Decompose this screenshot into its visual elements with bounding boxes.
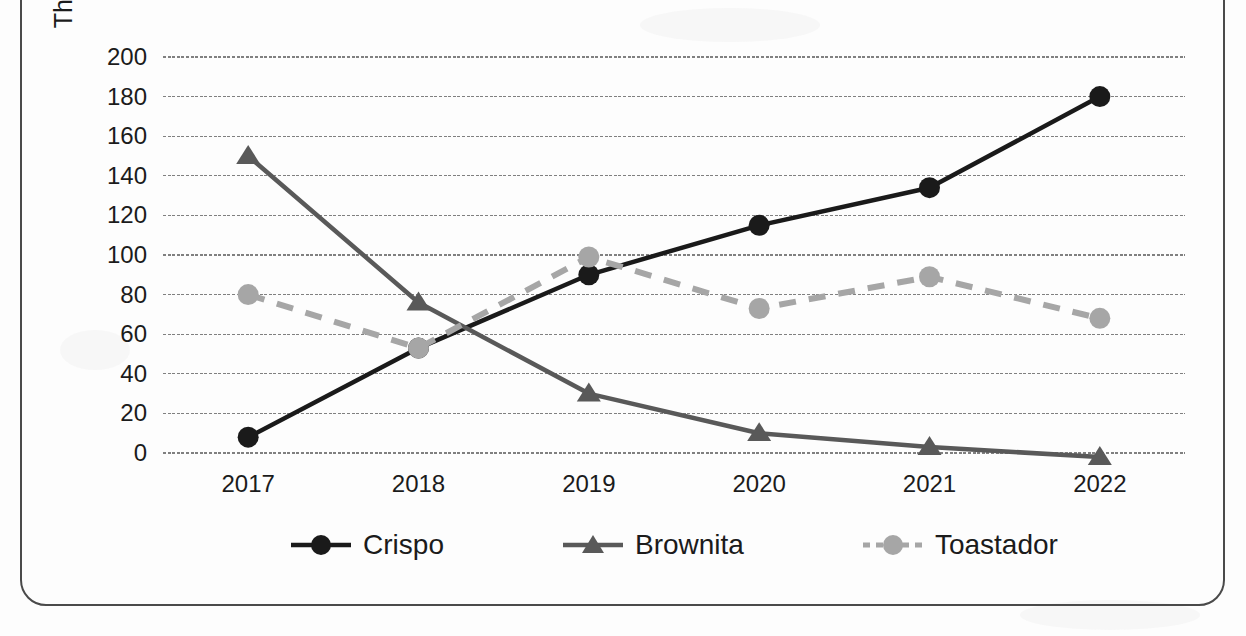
- chart-legend: CrispoBrownitaToastador: [163, 521, 1185, 569]
- plot-area: [163, 57, 1185, 453]
- y-tick-label: 40: [87, 362, 147, 386]
- data-point-marker: [919, 266, 940, 287]
- y-tick-label: 120: [87, 203, 147, 227]
- data-point-marker: [238, 427, 259, 448]
- x-tick-label: 2020: [699, 470, 819, 499]
- legend-label: Crispo: [363, 531, 444, 559]
- y-tick-label: 20: [87, 401, 147, 425]
- data-point-marker: [236, 145, 260, 164]
- legend-item-crispo[interactable]: Crispo: [290, 531, 444, 559]
- series-crispo: [238, 86, 1111, 448]
- y-tick-label: 200: [87, 45, 147, 69]
- series-brownita: [236, 145, 1112, 465]
- x-tick-label: 2018: [359, 470, 479, 499]
- data-point-marker: [749, 298, 770, 319]
- gridlines: [163, 57, 1185, 453]
- data-point-marker: [1089, 308, 1110, 329]
- plot-svg: [163, 57, 1185, 453]
- y-axis-tick-labels: 200180160140120100806040200: [85, 57, 147, 453]
- x-axis-tick-labels: 201720182019202020212022: [163, 470, 1185, 502]
- data-point-marker: [408, 338, 429, 359]
- data-point-marker: [749, 215, 770, 236]
- y-tick-label: 140: [87, 164, 147, 188]
- x-tick-label: 2019: [529, 470, 649, 499]
- data-point-marker: [1089, 86, 1110, 107]
- legend-item-brownita[interactable]: Brownita: [562, 531, 744, 559]
- x-tick-label: 2021: [870, 470, 990, 499]
- y-tick-label: 80: [87, 283, 147, 307]
- x-tick-label: 2022: [1040, 470, 1160, 499]
- legend-label: Toastador: [935, 531, 1058, 559]
- y-tick-label: 180: [87, 85, 147, 109]
- series-toastador: [238, 246, 1111, 358]
- series-line: [248, 156, 1100, 457]
- y-tick-label: 160: [87, 124, 147, 148]
- data-point-marker: [238, 284, 259, 305]
- legend-marker-icon: [862, 532, 924, 558]
- legend-label: Brownita: [635, 531, 744, 559]
- y-tick-label: 60: [87, 322, 147, 346]
- data-point-marker: [919, 177, 940, 198]
- chart-screenshot: Thousands of Units Sold 2001801601401201…: [0, 0, 1246, 636]
- data-point-marker: [577, 383, 601, 402]
- legend-marker-icon: [290, 532, 352, 558]
- data-point-marker: [578, 246, 599, 267]
- y-axis-title: Thousands of Units Sold: [44, 0, 82, 86]
- y-tick-label: 100: [87, 243, 147, 267]
- legend-marker-icon: [562, 532, 624, 558]
- y-tick-label: 0: [87, 441, 147, 465]
- x-tick-label: 2017: [188, 470, 308, 499]
- legend-item-toastador[interactable]: Toastador: [862, 531, 1058, 559]
